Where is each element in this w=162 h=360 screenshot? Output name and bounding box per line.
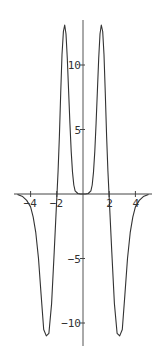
y-tick-label: −10 xyxy=(61,317,81,330)
line-chart: −4−224 105−5−10 xyxy=(0,0,162,360)
y-tick-label: 10 xyxy=(68,59,81,72)
y-tick-label: −5 xyxy=(68,253,81,266)
x-tick-label: 4 xyxy=(132,197,139,210)
y-tick-label: 5 xyxy=(74,124,81,137)
